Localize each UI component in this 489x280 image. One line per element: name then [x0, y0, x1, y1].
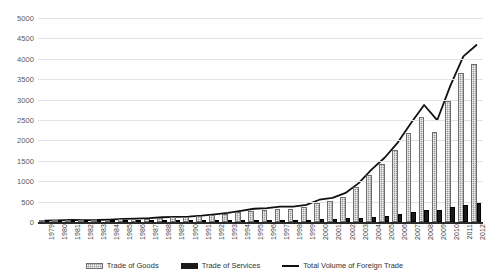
- gridline: [38, 161, 483, 162]
- x-axis-tick-label: 2004: [375, 224, 382, 240]
- bar-trade-of-services: [215, 220, 219, 222]
- gridline: [38, 120, 483, 121]
- y-axis-tick-label: 2000: [17, 136, 34, 145]
- x-axis-tick-label: 2002: [349, 224, 356, 240]
- x-axis-tick-label: 1987: [152, 224, 159, 240]
- x-axis-tick-label: 1980: [61, 224, 68, 240]
- bar-trade-of-goods: [392, 150, 398, 222]
- bar-trade-of-goods: [379, 164, 385, 222]
- x-axis-tick-label: 1983: [100, 224, 107, 240]
- bar-trade-of-services: [97, 220, 101, 222]
- x-axis-tick-label: 1984: [113, 224, 120, 240]
- y-axis-tick-label: 4500: [17, 34, 34, 43]
- bar-trade-of-goods: [458, 73, 464, 222]
- bar-trade-of-services: [424, 210, 428, 222]
- bar-trade-of-services: [306, 220, 310, 222]
- bar-trade-of-services: [280, 220, 284, 222]
- x-axis-tick-label: 1991: [205, 224, 212, 240]
- legend-swatch-goods-icon: [86, 263, 103, 269]
- bar-trade-of-services: [437, 210, 441, 222]
- bar-trade-of-services: [463, 205, 467, 222]
- bar-trade-of-services: [372, 217, 376, 222]
- bar-trade-of-services: [385, 216, 389, 222]
- x-axis-tick-label: 1985: [126, 224, 133, 240]
- bar-trade-of-services: [254, 220, 258, 222]
- legend-item-trade-of-goods: Trade of Goods: [86, 261, 159, 270]
- bar-trade-of-services: [189, 220, 193, 222]
- bar-trade-of-goods: [406, 133, 412, 222]
- y-axis-tick-label: 3000: [17, 95, 34, 104]
- chart-container: 0500100015002000250030003500400045005000…: [0, 0, 489, 280]
- y-axis-tick-label: 2500: [17, 116, 34, 125]
- gridline: [38, 38, 483, 39]
- x-axis-tick-label: 2010: [453, 224, 460, 240]
- gridline: [38, 181, 483, 182]
- bar-trade-of-goods: [471, 64, 477, 222]
- y-axis-tick-label: 3500: [17, 75, 34, 84]
- bar-trade-of-services: [136, 220, 140, 222]
- bar-trade-of-services: [320, 219, 324, 222]
- x-axis-tick-label: 2009: [440, 224, 447, 240]
- x-axis-tick-label: 2011: [466, 224, 473, 239]
- x-axis-tick-label: 2001: [335, 224, 342, 240]
- y-axis-tick-label: 1500: [17, 156, 34, 165]
- bar-trade-of-goods: [419, 117, 425, 222]
- x-axis-tick-label: 1993: [231, 224, 238, 240]
- x-axis-tick-label: 2006: [401, 224, 408, 240]
- bar-trade-of-services: [71, 220, 75, 222]
- x-axis-tick-label: 1997: [283, 224, 290, 240]
- x-axis-tick-label: 1998: [296, 224, 303, 240]
- x-axis-tick-label: 1996: [270, 224, 277, 240]
- x-axis-tick-label: 1995: [257, 224, 264, 240]
- bar-trade-of-services: [411, 212, 415, 222]
- x-axis-tick-label: 1992: [218, 224, 225, 240]
- y-axis: 0500100015002000250030003500400045005000: [0, 18, 34, 222]
- bar-trade-of-services: [149, 220, 153, 222]
- bar-trade-of-services: [110, 220, 114, 222]
- x-axis: 1979198019811982198319841985198619871988…: [38, 224, 483, 258]
- legend-item-trade-of-services: Trade of Services: [181, 261, 261, 270]
- x-axis-tick-label: 1981: [74, 224, 81, 240]
- bar-trade-of-services: [228, 220, 232, 222]
- line-total-volume-of-foreign-trade: [45, 45, 477, 221]
- legend-label-total: Total Volume of Foreign Trade: [303, 261, 403, 270]
- y-axis-tick-label: 500: [21, 197, 34, 206]
- legend-label-services: Trade of Services: [202, 261, 261, 270]
- legend-label-goods: Trade of Goods: [107, 261, 159, 270]
- bar-trade-of-services: [241, 220, 245, 222]
- bar-trade-of-services: [162, 220, 166, 222]
- bar-trade-of-services: [45, 220, 49, 222]
- y-axis-tick-label: 1000: [17, 177, 34, 186]
- bar-trade-of-services: [450, 207, 454, 222]
- bar-trade-of-services: [123, 220, 127, 222]
- bar-trade-of-services: [477, 203, 481, 222]
- x-axis-tick-label: 1988: [165, 224, 172, 240]
- x-axis-tick-label: 2003: [362, 224, 369, 240]
- x-axis-tick-label: 1986: [139, 224, 146, 240]
- x-axis-tick-label: 2008: [427, 224, 434, 240]
- bar-trade-of-goods: [432, 132, 438, 222]
- x-axis-tick-label: 1982: [87, 224, 94, 240]
- y-axis-tick-label: 0: [30, 218, 34, 227]
- x-axis-tick-label: 2012: [479, 224, 486, 240]
- x-axis-tick-label: 1999: [309, 224, 316, 240]
- chart-legend: Trade of Goods Trade of Services Total V…: [0, 261, 489, 270]
- legend-swatch-line-icon: [282, 265, 299, 267]
- bar-trade-of-services: [359, 218, 363, 222]
- x-axis-tick-label: 1979: [48, 224, 55, 240]
- x-axis-tick-label: 1989: [178, 224, 185, 240]
- bar-trade-of-goods: [353, 187, 359, 222]
- bar-trade-of-goods: [445, 101, 451, 222]
- gridline: [38, 140, 483, 141]
- gridline: [38, 59, 483, 60]
- gridline: [38, 202, 483, 203]
- bar-trade-of-services: [267, 220, 271, 222]
- bar-trade-of-services: [84, 220, 88, 222]
- bar-trade-of-services: [176, 220, 180, 222]
- x-axis-tick-label: 1990: [192, 224, 199, 240]
- bar-trade-of-services: [202, 220, 206, 222]
- bar-trade-of-services: [293, 220, 297, 222]
- x-axis-tick-label: 2000: [322, 224, 329, 240]
- bar-trade-of-goods: [366, 175, 372, 222]
- legend-item-total-volume: Total Volume of Foreign Trade: [282, 261, 403, 270]
